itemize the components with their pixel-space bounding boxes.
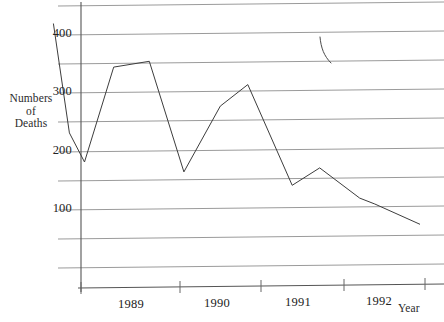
gridline-0 [58,264,444,268]
chart-plot-area [0,0,444,322]
gridline-450 [58,2,444,6]
gridline-150 [58,177,444,181]
gridlines-group [58,2,444,268]
y-tick-label-400: 400 [40,26,72,41]
gridline-350 [58,60,444,64]
y-axis-title: Numbers of Deaths [2,92,60,130]
gridline-200 [58,148,444,152]
data-series-line [53,24,420,225]
y-tick-label-200: 200 [40,143,72,158]
gridline-400 [58,31,444,35]
stray-pen-mark [320,37,331,63]
y-tick-label-100: 100 [40,201,72,216]
x-axis-title: Year [398,302,420,315]
chart-container: 400 300 200 100 1989 1990 1991 1992 Numb… [0,0,444,322]
y-axis-title-line-3: Deaths [2,117,60,130]
gridline-250 [58,118,444,122]
x-tick-label-1989: 1989 [104,297,158,312]
y-axis-title-line-1: Numbers [2,92,60,105]
gridline-50 [58,235,444,239]
x-tick-label-1991: 1991 [271,295,325,310]
y-axis-title-line-2: of [2,105,60,118]
x-tick-label-1990: 1990 [190,296,244,311]
